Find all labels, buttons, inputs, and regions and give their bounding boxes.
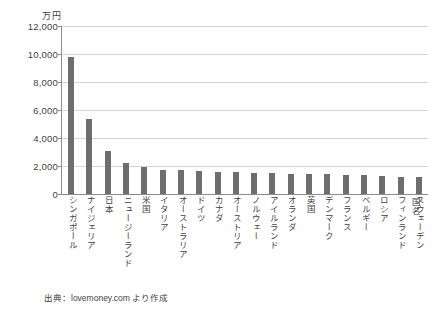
y-axis-tick bbox=[58, 54, 62, 55]
x-axis-tick-labels: シンガポールナイジェリア日本ニュージーランド米国イタリアオーストラリアドイツカナ… bbox=[62, 196, 428, 276]
bar[interactable] bbox=[398, 177, 404, 195]
bar[interactable] bbox=[160, 170, 166, 195]
x-axis-tick-label: 米国 bbox=[140, 196, 149, 214]
bar[interactable] bbox=[251, 173, 257, 194]
bar[interactable] bbox=[123, 163, 129, 194]
bar[interactable] bbox=[343, 175, 349, 194]
y-axis-tick-label: 10,000 bbox=[2, 49, 58, 60]
bar-slot[interactable] bbox=[355, 26, 373, 194]
x-axis-tick-label: デンマーク bbox=[323, 196, 332, 241]
y-axis-tick-label: 4,000 bbox=[2, 133, 58, 144]
bar[interactable] bbox=[288, 174, 294, 194]
bar[interactable] bbox=[196, 171, 202, 194]
bar[interactable] bbox=[324, 174, 330, 194]
y-axis-tick-label: 8,000 bbox=[2, 77, 58, 88]
x-axis-tick-label: ドイツ bbox=[195, 196, 204, 223]
x-axis-tick-label: 日本 bbox=[103, 196, 112, 214]
bar[interactable] bbox=[215, 172, 221, 194]
bar[interactable] bbox=[86, 119, 92, 194]
x-axis-tick-label: シンガポール bbox=[67, 196, 76, 250]
bar-slot[interactable] bbox=[172, 26, 190, 194]
bar[interactable] bbox=[141, 167, 147, 194]
x-axis-tick-label: フランス bbox=[341, 196, 350, 232]
bar-slot[interactable] bbox=[62, 26, 80, 194]
x-axis-line bbox=[61, 194, 428, 195]
bar-slot[interactable] bbox=[337, 26, 355, 194]
bar-slot[interactable] bbox=[282, 26, 300, 194]
y-axis-tick bbox=[58, 110, 62, 111]
y-axis-tick-label: 6,000 bbox=[2, 105, 58, 116]
y-axis-tick bbox=[58, 138, 62, 139]
bar-slot[interactable] bbox=[300, 26, 318, 194]
chart-figure: 万円 12,00010,0008,0006,0004,0002,0000 シンガ… bbox=[0, 0, 434, 310]
y-axis-tick-labels: 12,00010,0008,0006,0004,0002,0000 bbox=[0, 26, 58, 194]
x-axis-tick-label: フィンランド bbox=[396, 196, 405, 250]
bar-slot[interactable] bbox=[190, 26, 208, 194]
x-axis-tick-label: ロシア bbox=[378, 196, 387, 223]
bar-slot[interactable] bbox=[373, 26, 391, 194]
plot-area bbox=[62, 26, 428, 194]
bar-slot[interactable] bbox=[391, 26, 409, 194]
bar[interactable] bbox=[361, 175, 367, 194]
bar[interactable] bbox=[306, 174, 312, 194]
x-axis-tick-label: オーストラリア bbox=[176, 196, 185, 259]
bar[interactable] bbox=[269, 173, 275, 194]
x-axis-tick-label: アイルランド bbox=[268, 196, 277, 250]
y-axis-tick-label: 2,000 bbox=[2, 161, 58, 172]
x-axis-tick-label: ノルウェー bbox=[250, 196, 259, 241]
bar-slot[interactable] bbox=[410, 26, 428, 194]
y-axis-tick bbox=[58, 194, 62, 195]
bar-slot[interactable] bbox=[263, 26, 281, 194]
bar-series bbox=[62, 26, 428, 194]
bar-slot[interactable] bbox=[99, 26, 117, 194]
bar[interactable] bbox=[68, 57, 74, 194]
bar[interactable] bbox=[379, 176, 385, 194]
bar-slot[interactable] bbox=[227, 26, 245, 194]
source-note: 出典：lovemoney.com より作成 bbox=[44, 291, 168, 303]
bar-slot[interactable] bbox=[117, 26, 135, 194]
x-axis-tick-label: オランダ bbox=[286, 196, 295, 232]
bar-slot[interactable] bbox=[80, 26, 98, 194]
x-axis-tick-label: 英国 bbox=[304, 196, 313, 214]
x-axis-tick-label: カナダ bbox=[213, 196, 222, 223]
bar-slot[interactable] bbox=[245, 26, 263, 194]
x-axis-title: 国名 bbox=[410, 198, 419, 216]
y-axis-tick bbox=[58, 166, 62, 167]
y-axis-tick bbox=[58, 26, 62, 27]
x-axis-tick-label: ニュージーランド bbox=[121, 196, 130, 268]
x-axis-tick-label: ベルギー bbox=[359, 196, 368, 232]
bar[interactable] bbox=[416, 177, 422, 194]
x-axis-tick-label: オーストリア bbox=[231, 196, 240, 250]
bar-slot[interactable] bbox=[135, 26, 153, 194]
bar[interactable] bbox=[178, 170, 184, 194]
bar[interactable] bbox=[105, 151, 111, 194]
bar-slot[interactable] bbox=[318, 26, 336, 194]
bar-slot[interactable] bbox=[154, 26, 172, 194]
x-axis-tick-label: ナイジェリア bbox=[85, 196, 94, 250]
y-axis-tick-label: 12,000 bbox=[2, 21, 58, 32]
y-axis-tick-label: 0 bbox=[2, 189, 58, 200]
x-axis-tick-label: イタリア bbox=[158, 196, 167, 232]
bar[interactable] bbox=[233, 172, 239, 194]
bar-slot[interactable] bbox=[208, 26, 226, 194]
y-axis-tick bbox=[58, 82, 62, 83]
